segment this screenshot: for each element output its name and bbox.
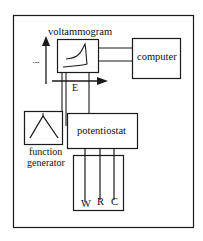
current-axis-label: i (32, 61, 41, 64)
voltammogram-box (58, 40, 99, 73)
function-generator-label-line1: function (29, 147, 62, 157)
voltammogram-label: voltammogram (48, 27, 112, 38)
potential-axis-label: E (72, 83, 78, 93)
computer-label: computer (137, 52, 177, 63)
potential-axis-arrowhead-icon (97, 77, 108, 85)
potentiostat-label: potentiostat (77, 126, 126, 137)
electrode-w-label: W (81, 199, 91, 210)
electrode-r-label: R (97, 197, 104, 208)
current-axis-arrowhead-icon (42, 36, 50, 46)
function-generator-label-line2: generator (27, 158, 65, 168)
electrode-c-label: C (111, 197, 118, 208)
